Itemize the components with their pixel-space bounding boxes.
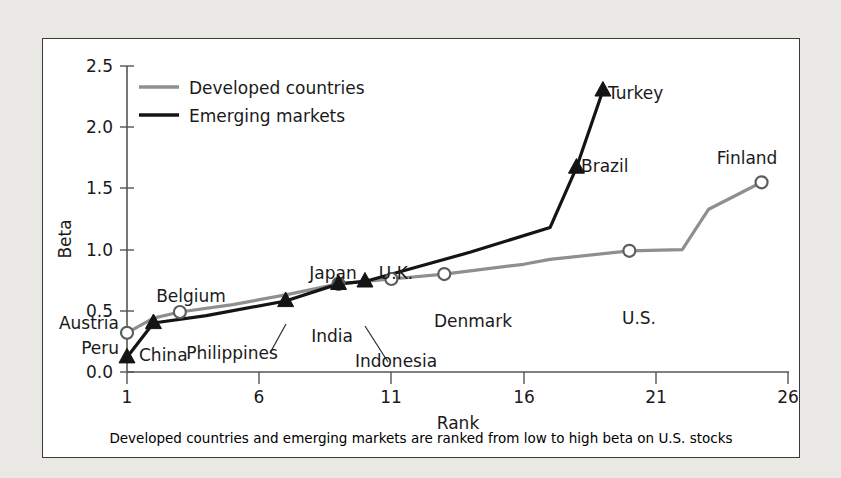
label-turkey: Turkey: [607, 83, 663, 103]
chart-screenshot: { "chart_data": { "type": "line", "title…: [0, 0, 841, 478]
y-tick-label-2: 1.5: [86, 178, 113, 198]
x-tick-label-1: 6: [254, 387, 265, 407]
legend-label-developed: Developed countries: [189, 78, 365, 98]
y-tick-label-3: 1.0: [86, 240, 113, 260]
series-line-emerging-markets: [127, 90, 603, 357]
figure-panel: 2.5 2.0 1.5 1.0 0.5 0.0 Beta 1 6 11 16 2…: [42, 38, 800, 458]
label-finland: Finland: [717, 148, 778, 168]
x-tick-label-0: 1: [122, 387, 133, 407]
marker-belgium: [174, 306, 186, 318]
label-uk: U.K.: [379, 263, 413, 283]
marker-denmark: [438, 268, 450, 280]
label-peru: Peru: [81, 338, 119, 358]
x-ticks: [127, 372, 788, 384]
label-indonesia: Indonesia: [355, 351, 437, 371]
label-belgium: Belgium: [156, 286, 226, 306]
legend-label-emerging: Emerging markets: [189, 106, 345, 126]
y-tick-label-0: 2.5: [86, 56, 113, 76]
figure-caption: Developed countries and emerging markets…: [109, 430, 732, 446]
beta-rank-line-chart: 2.5 2.0 1.5 1.0 0.5 0.0 Beta 1 6 11 16 2…: [43, 39, 799, 457]
label-austria: Austria: [59, 313, 119, 333]
marker-austria: [121, 327, 133, 339]
x-tick-label-4: 21: [645, 387, 667, 407]
label-philippines: Philippines: [186, 343, 278, 363]
marker-finland: [756, 176, 768, 188]
x-tick-label-3: 16: [513, 387, 535, 407]
y-tick-label-5: 0.0: [86, 362, 113, 382]
x-tick-label-5: 26: [777, 387, 799, 407]
x-tick-label-2: 11: [380, 387, 402, 407]
marker-u-s: [623, 245, 635, 257]
label-china: China: [139, 345, 188, 365]
label-us: U.S.: [622, 308, 656, 328]
label-japan: Japan: [308, 263, 356, 283]
label-brazil: Brazil: [581, 156, 628, 176]
y-tick-label-1: 2.0: [86, 117, 113, 137]
label-india: India: [311, 326, 353, 346]
y-axis-title: Beta: [55, 219, 75, 258]
label-denmark: Denmark: [434, 311, 512, 331]
chart-legend: Developed countries Emerging markets: [139, 78, 365, 126]
